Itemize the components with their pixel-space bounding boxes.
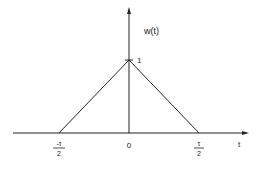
tick-denominator: 2 (197, 150, 201, 157)
plot-svg: w(t) 1 t -τ 2 0 τ 2 (0, 0, 260, 170)
tick-numerator: -τ (56, 140, 61, 147)
tick-numerator: τ (198, 140, 201, 147)
x-axis-label: t (238, 140, 241, 149)
y-axis-arrow-icon (127, 7, 131, 14)
y-axis-label: w(t) (143, 26, 159, 36)
triangular-window-diagram: w(t) 1 t -τ 2 0 τ 2 (0, 0, 260, 170)
x-axis-arrow-icon (242, 131, 249, 135)
tick-denominator: 2 (57, 150, 61, 157)
tick-label-neg-tau-half: -τ 2 (53, 140, 65, 157)
tick-label-tau-half: τ 2 (194, 140, 204, 157)
tick-label-zero: 0 (127, 141, 132, 150)
peak-label: 1 (137, 56, 142, 65)
